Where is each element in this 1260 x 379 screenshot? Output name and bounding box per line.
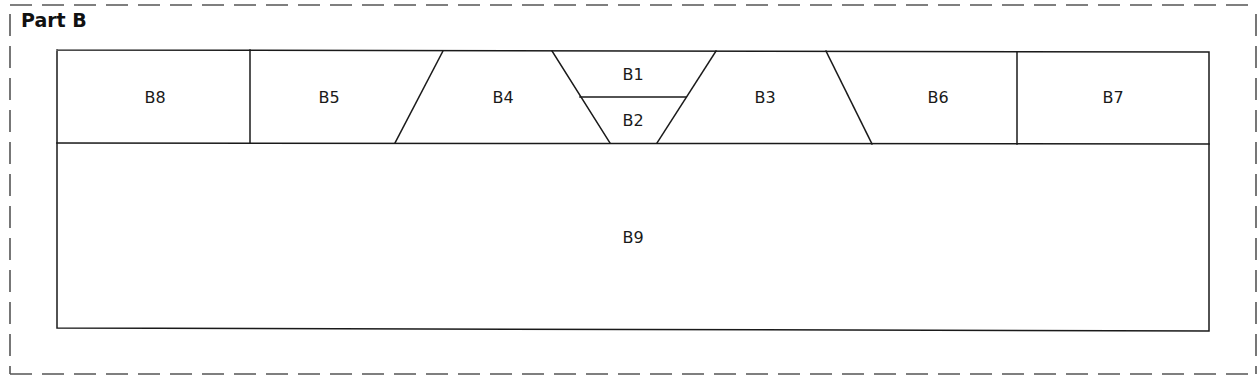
part-title: Part B [21,11,87,30]
label-b3: B3 [754,90,775,106]
label-b2: B2 [622,113,643,129]
label-b9: B9 [622,230,643,246]
label-b7: B7 [1102,90,1123,106]
label-b6: B6 [927,90,948,106]
label-b5: B5 [318,90,339,106]
label-b8: B8 [144,90,165,106]
regions [57,50,1209,331]
label-b1: B1 [622,67,643,83]
diagram-canvas [0,0,1260,379]
row-divider [57,143,1209,144]
label-b4: B4 [492,90,513,106]
